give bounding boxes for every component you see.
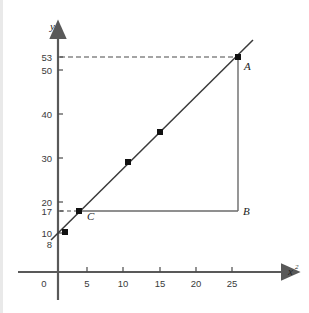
- x-axis-label-exponent: 2: [295, 263, 299, 271]
- tick-label-layer: 53 50 40 30 20 17 10 8 0 5 10 15 20 25 y…: [0, 0, 309, 313]
- y-tick-label-10: 10: [41, 228, 52, 239]
- y-tick-label-53: 53: [41, 52, 52, 63]
- y-tick-label-17: 17: [41, 206, 52, 217]
- y-tick-label-50: 50: [41, 65, 52, 76]
- point-label-c: C: [87, 210, 95, 222]
- x-tick-label-10: 10: [118, 278, 129, 289]
- x-tick-label-25: 25: [227, 278, 238, 289]
- y-tick-label-40: 40: [41, 109, 52, 120]
- y-tick-label-30: 30: [41, 153, 52, 164]
- point-label-a: A: [243, 60, 251, 72]
- point-label-b: B: [243, 205, 250, 217]
- y-axis-label: y: [49, 20, 55, 32]
- y-tick-label-8: 8: [47, 239, 52, 250]
- chart-canvas: 53 50 40 30 20 17 10 8 0 5 10 15 20 25 y…: [0, 0, 309, 313]
- x-tick-label-20: 20: [191, 278, 202, 289]
- x-tick-label-5: 5: [84, 278, 89, 289]
- x-tick-label-0: 0: [41, 278, 46, 289]
- x-axis-label-base: x: [287, 265, 293, 277]
- x-tick-label-15: 15: [155, 278, 166, 289]
